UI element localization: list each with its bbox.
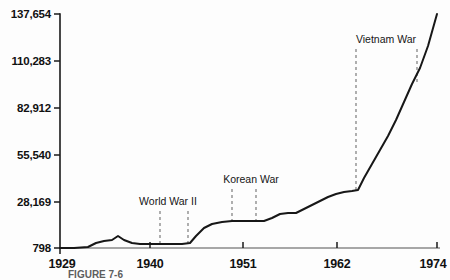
y-tick-label-5: 137,654 — [11, 8, 52, 20]
x-tick-label-4: 1974 — [419, 257, 446, 271]
korea-label: Korean War — [223, 173, 279, 185]
y-tick-label-3: 82,912 — [17, 102, 51, 114]
y-tick-label-4: 110,283 — [11, 55, 51, 67]
x-tick-label-1: 1940 — [136, 257, 163, 271]
figure-root: 137,654 110,283 82,912 55,540 28,169 798… — [0, 0, 450, 280]
annotation-korean-war: Korean War — [223, 173, 279, 221]
y-axis-tick-labels: 137,654 110,283 82,912 55,540 28,169 798 — [11, 8, 52, 254]
figure-caption: FIGURE 7-6 — [68, 269, 123, 280]
annotation-world-war-ii: World War II — [139, 195, 197, 244]
y-tick-label-1: 28,169 — [17, 196, 51, 208]
ww2-label: World War II — [139, 195, 197, 207]
x-tick-label-3: 1962 — [323, 257, 350, 271]
y-tick-label-2: 55,540 — [17, 149, 51, 161]
line-chart: 137,654 110,283 82,912 55,540 28,169 798… — [0, 0, 450, 280]
data-series-line — [60, 14, 437, 248]
annotation-vietnam-war: Vietnam War — [356, 33, 417, 190]
x-tick-label-2: 1951 — [229, 257, 256, 271]
y-tick-label-0: 798 — [32, 242, 51, 254]
vietnam-label: Vietnam War — [356, 33, 417, 45]
y-axis-ticks — [54, 14, 60, 248]
